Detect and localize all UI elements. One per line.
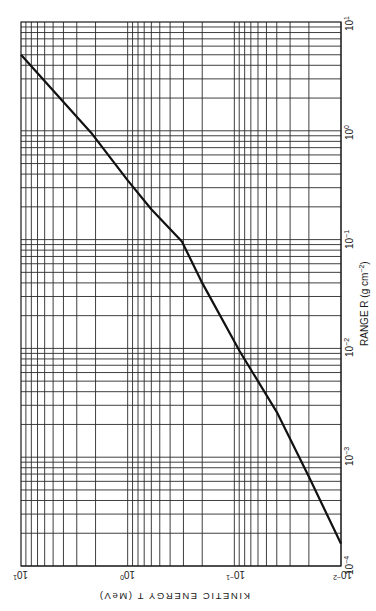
energy-tick-label: 100 xyxy=(120,569,135,580)
range-tick-label: 100 xyxy=(344,125,355,140)
energy-tick-label: 101 xyxy=(13,569,28,580)
log-grid xyxy=(21,22,341,566)
energy-tick-label: 10−2 xyxy=(333,569,352,580)
range-energy-curve xyxy=(21,55,341,544)
energy-tick-label: 10−1 xyxy=(226,569,245,580)
range-tick-label: 10−2 xyxy=(344,338,355,357)
range-tick-label: 101 xyxy=(344,16,355,31)
plot-frame xyxy=(21,22,341,566)
range-tick-label: 10−1 xyxy=(344,229,355,248)
range-tick-label: 10−3 xyxy=(344,447,355,466)
energy-axis-title: KINETIC ENERGY T (MeV) xyxy=(100,591,250,602)
range-axis-title: RANGE R (g cm−2) xyxy=(359,261,370,346)
chart-plot-area xyxy=(0,0,376,611)
